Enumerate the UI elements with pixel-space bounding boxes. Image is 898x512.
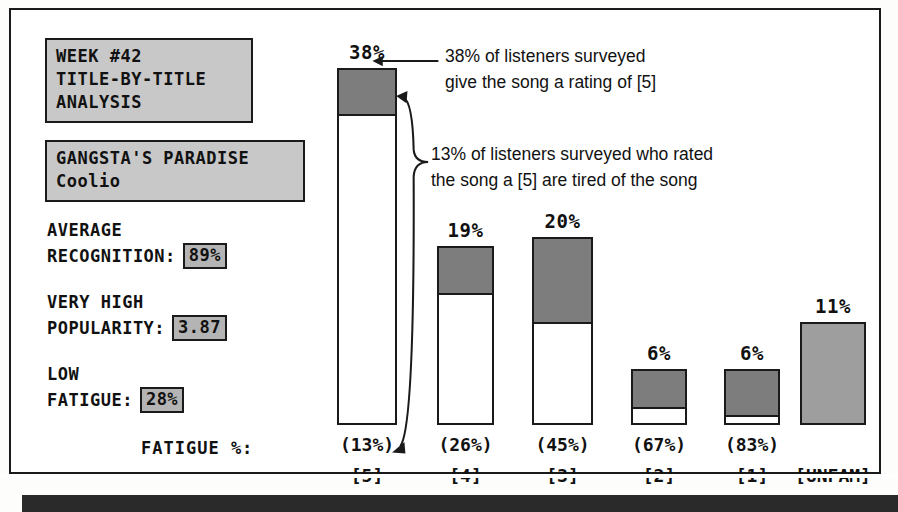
bar-3 [532, 237, 593, 425]
axis-fatigue-3: (45%) [520, 434, 605, 455]
callout-rating-share-line-1: 38% of listeners surveyed [445, 43, 656, 69]
bar-fatigue-segment-2 [633, 371, 685, 409]
callout-fatigue-share: 13% of listeners surveyed who rated the … [431, 141, 713, 193]
bar-value-label-3: 20% [532, 210, 593, 232]
bar-1 [724, 369, 780, 425]
callout-rating-share: 38% of listeners surveyed give the song … [445, 43, 656, 95]
chart-frame: WEEK #42 TITLE-BY-TITLE ANALYSIS GANGSTA… [9, 8, 881, 474]
callout-fatigue-share-line-1: 13% of listeners surveyed who rated [431, 141, 713, 167]
axis-fatigue-4: (26%) [425, 434, 506, 455]
bar-unfam [800, 322, 866, 425]
axis-fatigue-2: (67%) [619, 434, 699, 455]
page-edge-highlight [0, 474, 898, 478]
page-edge-shadow [22, 495, 898, 512]
callout-fatigue-share-line-2: the song a [5] are tired of the song [431, 167, 713, 193]
page-canvas: WEEK #42 TITLE-BY-TITLE ANALYSIS GANGSTA… [0, 0, 898, 512]
bar-fatigue-segment-4 [439, 248, 492, 295]
bar-fatigue-segment-1 [726, 371, 778, 417]
callout-rating-share-line-2: give the song a rating of [5] [445, 69, 656, 95]
bar-value-label-unfam: 11% [800, 295, 866, 317]
bar-fatigue-segment-3 [534, 239, 591, 324]
axis-fatigue-5: (13%) [325, 434, 409, 455]
bar-value-label-4: 19% [437, 219, 494, 241]
bar-fatigue-segment-5 [339, 70, 395, 116]
bar-2 [631, 369, 687, 425]
bar-4 [437, 246, 494, 425]
bar-value-label-1: 6% [724, 342, 780, 364]
bar-value-label-2: 6% [631, 342, 687, 364]
bar-5 [337, 68, 397, 425]
axis-fatigue-1: (83%) [712, 434, 792, 455]
bar-value-label-5: 38% [337, 41, 397, 63]
